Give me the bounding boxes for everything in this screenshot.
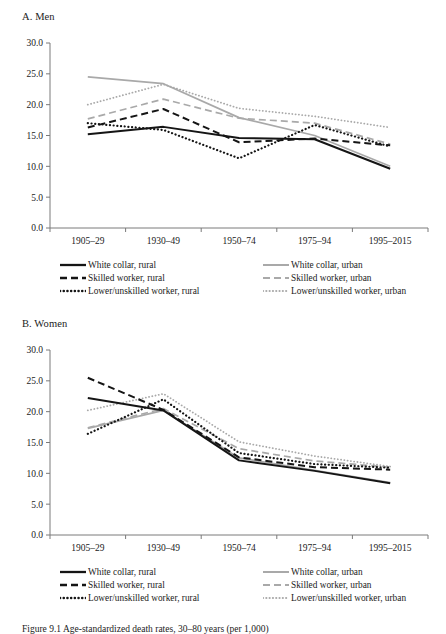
y-tick-label: 20.0 [26, 100, 43, 110]
y-tick-label: 15.0 [26, 131, 43, 141]
panel-women-title: B. Women [22, 318, 67, 329]
legend-row: Skilled worker, rural Skilled worker, ur… [60, 578, 446, 591]
line-swatch-solid-black [60, 566, 86, 577]
x-tick-label: 1930–49 [147, 543, 181, 553]
legend-item-white-collar-rural[interactable]: White collar, rural [60, 259, 263, 270]
y-tick-label: 5.0 [31, 193, 43, 203]
x-tick-label: 1905–29 [71, 236, 105, 246]
legend-label: Lower/unskilled worker, rural [88, 593, 199, 603]
panel-men-title: A. Men [22, 11, 55, 22]
legend-item-lower-unskilled-urban[interactable]: Lower/unskilled worker, urban [263, 285, 446, 296]
legend-item-skilled-urban[interactable]: Skilled worker, urban [263, 579, 446, 590]
line-swatch-dashed-black [60, 579, 86, 590]
legend-item-lower-unskilled-rural[interactable]: Lower/unskilled worker, rural [60, 285, 263, 296]
legend-label: Lower/unskilled worker, urban [291, 593, 406, 603]
legend-label: White collar, rural [88, 567, 156, 577]
line-swatch-dotted-gray [263, 592, 289, 603]
legend-row: Lower/unskilled worker, rural Lower/unsk… [60, 284, 446, 297]
legend-women: White collar, rural White collar, urban … [60, 565, 446, 604]
x-tick-label: 1975–94 [298, 543, 332, 553]
legend-item-lower-unskilled-rural[interactable]: Lower/unskilled worker, rural [60, 592, 263, 603]
x-tick-label: 1950–74 [222, 543, 256, 553]
y-tick-label: 15.0 [26, 438, 43, 448]
line-swatch-dotted-black [60, 592, 86, 603]
y-tick-label: 5.0 [31, 500, 43, 510]
series-line [88, 378, 390, 470]
legend-label: Skilled worker, rural [88, 580, 165, 590]
line-swatch-dashed-gray [263, 579, 289, 590]
legend-label: White collar, rural [88, 260, 156, 270]
legend-item-white-collar-urban[interactable]: White collar, urban [263, 566, 446, 577]
line-swatch-solid-gray [263, 259, 289, 270]
legend-men: White collar, rural White collar, urban … [60, 258, 446, 297]
legend-item-white-collar-rural[interactable]: White collar, rural [60, 566, 263, 577]
figure-caption: Figure 9.1 Age-standardized death rates,… [22, 624, 269, 634]
legend-label: Skilled worker, urban [291, 580, 371, 590]
line-swatch-solid-gray [263, 566, 289, 577]
legend-item-skilled-urban[interactable]: Skilled worker, urban [263, 272, 446, 283]
y-tick-label: 25.0 [26, 69, 43, 79]
y-tick-label: 10.0 [26, 162, 43, 172]
x-tick-label: 1930–49 [147, 236, 181, 246]
line-swatch-dotted-black [60, 285, 86, 296]
chart-women-svg: 0.05.010.015.020.025.030.01905–291930–49… [0, 337, 446, 557]
y-tick-label: 10.0 [26, 469, 43, 479]
legend-item-lower-unskilled-urban[interactable]: Lower/unskilled worker, urban [263, 592, 446, 603]
x-tick-label: 1995–2015 [369, 236, 412, 246]
line-swatch-dashed-gray [263, 272, 289, 283]
series-line [88, 84, 390, 127]
legend-row: White collar, rural White collar, urban [60, 565, 446, 578]
legend-row: Skilled worker, rural Skilled worker, ur… [60, 271, 446, 284]
y-tick-label: 30.0 [26, 345, 43, 355]
y-tick-label: 25.0 [26, 376, 43, 386]
legend-row: White collar, rural White collar, urban [60, 258, 446, 271]
legend-label: Skilled worker, urban [291, 273, 371, 283]
legend-item-white-collar-urban[interactable]: White collar, urban [263, 259, 446, 270]
legend-label: Skilled worker, rural [88, 273, 165, 283]
legend-label: Lower/unskilled worker, urban [291, 286, 406, 296]
x-tick-label: 1950–74 [222, 236, 256, 246]
line-swatch-solid-black [60, 259, 86, 270]
x-tick-label: 1905–29 [71, 543, 105, 553]
x-tick-label: 1995–2015 [369, 543, 412, 553]
y-tick-label: 0.0 [31, 223, 43, 233]
legend-label: White collar, urban [291, 260, 363, 270]
legend-item-skilled-rural[interactable]: Skilled worker, rural [60, 579, 263, 590]
chart-women: 0.05.010.015.020.025.030.01905–291930–49… [0, 337, 446, 557]
legend-label: Lower/unskilled worker, rural [88, 286, 199, 296]
legend-item-skilled-rural[interactable]: Skilled worker, rural [60, 272, 263, 283]
legend-row: Lower/unskilled worker, rural Lower/unsk… [60, 591, 446, 604]
chart-men: 0.05.010.015.020.025.030.01905–291930–49… [0, 30, 446, 250]
y-tick-label: 20.0 [26, 407, 43, 417]
y-tick-label: 30.0 [26, 38, 43, 48]
line-swatch-dotted-gray [263, 285, 289, 296]
series-line [88, 410, 390, 482]
line-swatch-dashed-black [60, 272, 86, 283]
series-line [88, 398, 390, 483]
y-tick-label: 0.0 [31, 530, 43, 540]
chart-men-svg: 0.05.010.015.020.025.030.01905–291930–49… [0, 30, 446, 250]
legend-label: White collar, urban [291, 567, 363, 577]
x-tick-label: 1975–94 [298, 236, 332, 246]
